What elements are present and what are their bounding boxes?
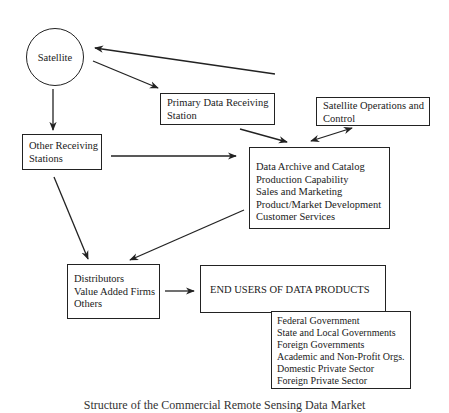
figure-caption: Structure of the Commercial Remote Sensi…: [0, 398, 449, 413]
edge-primary-to-datacenter: [240, 129, 287, 142]
node-text-line: Others: [74, 298, 153, 311]
satellite-node: Satellite: [26, 28, 84, 86]
satellite-ops-node: Satellite Operations and Control: [316, 97, 430, 126]
node-text-line: Control: [323, 113, 423, 126]
node-text-line: Distributors: [74, 273, 153, 286]
node-text-line: Other Receiving: [29, 140, 95, 153]
node-text-line: Production Capability: [256, 174, 383, 187]
satellite-label: Satellite: [38, 52, 72, 63]
end-user-types-node: Federal Government State and Local Gover…: [271, 311, 411, 389]
distributors-node: Distributors Value Added Firms Others: [67, 264, 160, 319]
node-text-line: Sales and Marketing: [256, 186, 383, 199]
other-stations-node: Other Receiving Stations: [22, 134, 102, 170]
edge-other-to-distributors: [54, 177, 88, 259]
edge-ops-datacenter-bidirectional: [311, 128, 352, 141]
node-text-line: Foreign Private Sector: [277, 375, 404, 387]
node-text-line: Customer Services: [256, 211, 383, 224]
node-text-line: State and Local Governments: [277, 327, 404, 339]
edge-ops-to-satellite: [95, 48, 275, 74]
node-text-line: Data Archive and Catalog: [256, 161, 383, 174]
edge-satellite-to-primary: [93, 61, 158, 88]
node-text-line: Academic and Non-Profit Orgs.: [277, 351, 404, 363]
node-text-line: Federal Government: [277, 315, 404, 327]
data-center-node: Data Archive and Catalog Production Capa…: [249, 147, 390, 229]
node-text-line: Stations: [29, 153, 95, 166]
node-text-line: Primary Data Receiving: [167, 97, 268, 110]
primary-station-node: Primary Data Receiving Station: [160, 93, 275, 125]
node-text-line: Foreign Governments: [277, 339, 404, 351]
edge-datacenter-to-distributors: [130, 210, 244, 260]
node-text-line: Satellite Operations and: [323, 100, 423, 113]
node-text-line: Product/Market Development: [256, 199, 383, 212]
node-text-line: Value Added Firms: [74, 286, 153, 299]
node-text-line: Domestic Private Sector: [277, 363, 404, 375]
node-text-line: Station: [167, 110, 268, 123]
end-users-node: END USERS OF DATA PRODUCTS: [200, 265, 386, 313]
end-users-title: END USERS OF DATA PRODUCTS: [210, 284, 379, 297]
